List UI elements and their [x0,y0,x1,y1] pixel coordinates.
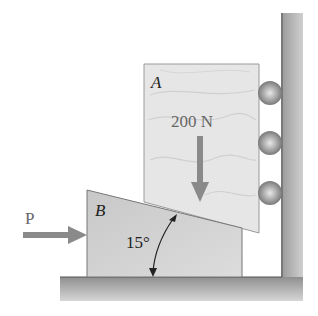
roller-bottom [258,181,282,205]
block-b-label: B [95,201,106,220]
wedge-diagram: A 200 N B P 15° [0,0,318,316]
vertical-wall [281,13,303,278]
floor [60,277,303,301]
angle-label: 15° [126,233,150,252]
force-p-label: P [25,209,34,228]
roller-top [258,81,282,105]
load-label: 200 N [171,112,213,131]
force-p-arrow-icon [23,226,87,244]
block-a-label: A [150,73,162,92]
roller-middle [258,131,282,155]
